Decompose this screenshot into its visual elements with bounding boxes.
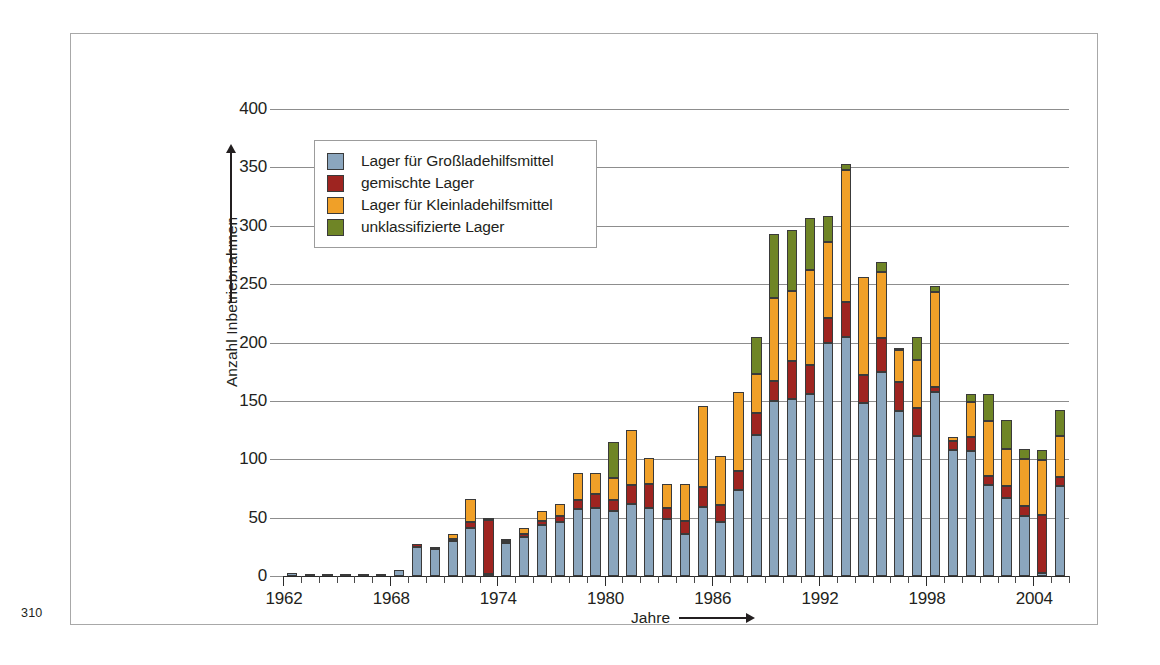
- bar-segment: [626, 485, 636, 504]
- bar-segment: [876, 262, 886, 273]
- bar-segment: [841, 302, 851, 337]
- bar-segment: [948, 437, 958, 441]
- x-axis-tick: [819, 576, 820, 586]
- x-axis-tick: [301, 576, 302, 583]
- y-axis-tick-dash: [270, 518, 283, 519]
- x-axis-tick: [908, 576, 909, 583]
- bar-segment: [519, 528, 529, 534]
- y-axis-tick-label: 350: [215, 157, 267, 177]
- bar-segment: [894, 382, 904, 411]
- y-axis-tick-dash: [270, 109, 283, 110]
- bar-segment: [823, 242, 833, 318]
- x-axis-tick-label: 1962: [265, 589, 302, 609]
- bar-segment: [733, 392, 743, 471]
- x-axis-tick: [944, 576, 945, 583]
- bar-segment: [858, 277, 868, 375]
- x-axis-tick: [873, 576, 874, 583]
- x-axis-tick: [801, 576, 802, 583]
- bar-stack: [948, 437, 958, 576]
- bar-stack: [590, 473, 600, 576]
- y-axis-tick-dash: [270, 226, 283, 227]
- x-axis-tick: [408, 576, 409, 583]
- x-axis-tick: [462, 576, 463, 583]
- bar-stack: [626, 430, 636, 576]
- bar-segment: [662, 508, 672, 519]
- bar-segment: [1019, 516, 1029, 576]
- gridline: [283, 284, 1069, 285]
- x-axis-tick: [783, 576, 784, 583]
- bar-stack: [412, 544, 422, 576]
- bar-segment: [966, 402, 976, 437]
- bar-segment: [1037, 450, 1047, 461]
- bar-segment: [483, 520, 493, 574]
- bar-segment: [948, 450, 958, 576]
- x-axis-tick: [569, 576, 570, 583]
- bar-segment: [733, 490, 743, 576]
- x-axis-tick: [337, 576, 338, 583]
- x-axis-tick: [926, 576, 927, 586]
- y-axis-tick-label: 150: [215, 391, 267, 411]
- x-axis-tick: [998, 576, 999, 583]
- bar-segment: [769, 401, 779, 576]
- bar-segment: [983, 394, 993, 421]
- y-axis-tick-dash: [270, 576, 283, 577]
- legend-item-label: Lager für Kleinladehilfsmittel: [361, 196, 553, 214]
- bar-segment: [983, 421, 993, 476]
- x-axis-tick: [480, 576, 481, 583]
- x-axis-tick: [980, 576, 981, 583]
- bar-segment: [1001, 420, 1011, 449]
- y-axis-tick-label: 50: [215, 508, 267, 528]
- gridline: [283, 343, 1069, 344]
- bar-stack: [751, 337, 761, 576]
- bar-stack: [805, 218, 815, 576]
- x-axis-tick-label: 1998: [909, 589, 946, 609]
- bar-segment: [448, 539, 458, 541]
- bar-segment: [823, 343, 833, 577]
- x-axis-tick: [390, 576, 391, 586]
- bar-segment: [590, 508, 600, 576]
- x-axis-title-group: Jahre: [631, 609, 753, 627]
- bar-segment: [787, 399, 797, 576]
- bar-segment: [733, 471, 743, 490]
- bar-segment: [698, 507, 708, 576]
- bar-segment: [698, 487, 708, 507]
- bar-stack: [465, 499, 475, 576]
- bar-stack: [448, 534, 458, 576]
- bar-segment: [608, 478, 618, 500]
- bar-segment: [912, 436, 922, 576]
- y-axis-title: Anzahl Inbetriebnahmen: [223, 217, 241, 387]
- x-axis-tick-label: 1974: [480, 589, 517, 609]
- bar-segment: [662, 519, 672, 576]
- legend-item-label: Lager für Großladehilfsmittel: [361, 152, 554, 170]
- bar-segment: [787, 361, 797, 398]
- y-axis-tick-dash: [270, 459, 283, 460]
- bar-stack: [876, 262, 886, 576]
- bar-segment: [537, 511, 547, 522]
- bar-segment: [608, 500, 618, 511]
- x-axis-tick: [890, 576, 891, 583]
- x-axis-tick: [622, 576, 623, 583]
- x-axis-tick: [837, 576, 838, 583]
- x-axis-tick: [676, 576, 677, 583]
- bar-segment: [501, 541, 511, 543]
- bar-segment: [537, 525, 547, 576]
- x-axis-tick: [730, 576, 731, 583]
- legend-item-label: gemischte Lager: [361, 174, 474, 192]
- y-axis-tick-label: 250: [215, 274, 267, 294]
- bar-segment: [841, 337, 851, 576]
- bar-segment: [805, 218, 815, 271]
- bar-segment: [769, 234, 779, 298]
- y-axis-tick-dash: [270, 401, 283, 402]
- bar-segment: [412, 544, 422, 546]
- bar-segment: [465, 528, 475, 576]
- x-axis-tick: [962, 576, 963, 583]
- bar-segment: [894, 350, 904, 383]
- bar-segment: [1019, 459, 1029, 506]
- bar-segment: [519, 537, 529, 576]
- bar-segment: [769, 298, 779, 381]
- bar-segment: [644, 484, 654, 509]
- bar-segment: [1001, 449, 1011, 486]
- bar-stack: [698, 406, 708, 576]
- y-axis-tick-label: 200: [215, 333, 267, 353]
- bar-stack: [430, 548, 440, 576]
